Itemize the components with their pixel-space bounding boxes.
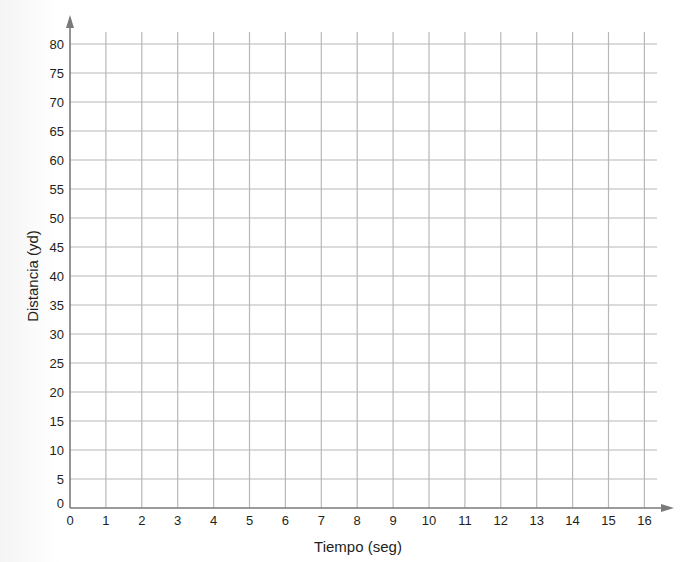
y-tick-label: 0 — [57, 496, 64, 511]
y-tick-label: 70 — [50, 95, 64, 110]
y-tick-label: 10 — [50, 443, 64, 458]
x-tick-label: 4 — [210, 513, 217, 528]
x-tick-label: 11 — [458, 513, 472, 528]
y-tick-label: 60 — [50, 153, 64, 168]
x-axis-arrow-icon — [661, 504, 674, 512]
x-tick-label: 2 — [138, 513, 145, 528]
grid-lines — [70, 32, 657, 508]
y-tick-label: 55 — [50, 182, 64, 197]
y-axis-label: Distancia (yd) — [24, 230, 41, 322]
x-tick-labels: 012345678910111213141516 — [66, 513, 651, 528]
y-tick-label: 30 — [50, 327, 64, 342]
x-tick-label: 14 — [565, 513, 579, 528]
x-tick-label: 13 — [529, 513, 543, 528]
y-tick-label: 50 — [50, 211, 64, 226]
x-tick-label: 5 — [246, 513, 253, 528]
x-tick-label: 3 — [174, 513, 181, 528]
x-axis-label: Tiempo (seg) — [314, 538, 402, 555]
blank-graph: 012345678910111213141516 051015202530354… — [0, 0, 689, 562]
x-tick-label: 10 — [422, 513, 436, 528]
x-tick-label: 6 — [282, 513, 289, 528]
y-tick-label: 15 — [50, 414, 64, 429]
x-tick-label: 9 — [389, 513, 396, 528]
y-tick-label: 5 — [57, 472, 64, 487]
y-tick-label: 25 — [50, 356, 64, 371]
y-axis-arrow-icon — [66, 15, 74, 28]
y-tick-label: 65 — [50, 124, 64, 139]
y-tick-label: 20 — [50, 385, 64, 400]
x-tick-label: 8 — [354, 513, 361, 528]
x-tick-label: 16 — [637, 513, 651, 528]
y-tick-label: 75 — [50, 66, 64, 81]
y-tick-label: 35 — [50, 298, 64, 313]
y-tick-labels: 05101520253035404550556065707580 — [50, 37, 64, 512]
y-tick-label: 80 — [50, 37, 64, 52]
x-tick-label: 1 — [102, 513, 109, 528]
x-tick-label: 15 — [601, 513, 615, 528]
x-tick-label: 0 — [66, 513, 73, 528]
y-tick-label: 45 — [50, 240, 64, 255]
x-tick-label: 12 — [494, 513, 508, 528]
axes — [66, 15, 674, 512]
y-tick-label: 40 — [50, 269, 64, 284]
x-tick-label: 7 — [318, 513, 325, 528]
